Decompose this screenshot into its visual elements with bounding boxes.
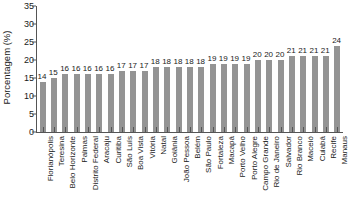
bar-group[interactable]: 21 [309, 6, 320, 132]
x-axis-tick-mark [54, 127, 55, 132]
x-axis-tick-mark [190, 127, 191, 132]
x-axis-tick-label: Goiânia [162, 134, 173, 224]
bar-group[interactable]: 16 [94, 6, 105, 132]
x-axis-tick-label: Florianópolis [37, 134, 48, 224]
bar[interactable] [312, 56, 318, 132]
bar-group[interactable]: 21 [298, 6, 309, 132]
x-axis-tick-label: Salvador [275, 134, 286, 224]
bar-group[interactable]: 17 [128, 6, 139, 132]
x-axis-tick-label: Campo Grande [252, 134, 263, 224]
bar[interactable] [164, 67, 170, 132]
x-axis-tick-mark [88, 127, 89, 132]
bar-group[interactable]: 16 [82, 6, 93, 132]
bar-group[interactable]: 24 [332, 6, 343, 132]
bar-value-label: 21 [321, 47, 330, 55]
x-axis-tick-mark [269, 127, 270, 132]
bar-group[interactable]: 18 [150, 6, 161, 132]
bar[interactable] [85, 74, 91, 132]
bar[interactable] [221, 64, 227, 132]
bar-value-label: 20 [253, 51, 262, 59]
bar-group[interactable]: 19 [230, 6, 241, 132]
bar-group[interactable]: 17 [116, 6, 127, 132]
x-axis-tick-label: Boa Vista [128, 134, 139, 224]
bar[interactable] [40, 82, 46, 132]
x-axis-tick-label: Palmas [71, 134, 82, 224]
bar-value-label: 19 [230, 55, 239, 63]
bar[interactable] [74, 74, 80, 132]
x-axis-tick-label: Rio de Janeiro [264, 134, 275, 224]
x-axis-tick-label: São Paulo [196, 134, 207, 224]
bar-group[interactable]: 21 [286, 6, 297, 132]
x-axis-tick-label: Porto Velho [230, 134, 241, 224]
x-axis-tick-label: Porto Alegre [241, 134, 252, 224]
bar[interactable] [232, 64, 238, 132]
bar-group[interactable]: 15 [48, 6, 59, 132]
x-axis-tick-mark [99, 127, 100, 132]
x-axis-tick-label: Fortaleza [207, 134, 218, 224]
x-axis-tick-mark [43, 127, 44, 132]
bar[interactable] [62, 74, 68, 132]
bar[interactable] [334, 46, 340, 132]
bar[interactable] [187, 67, 193, 132]
bar[interactable] [278, 60, 284, 132]
bar-value-label: 17 [139, 62, 148, 70]
bar-group[interactable]: 19 [241, 6, 252, 132]
bar-group[interactable]: 14 [37, 6, 48, 132]
bar-group[interactable]: 16 [105, 6, 116, 132]
bar-group[interactable]: 20 [275, 6, 286, 132]
bar-group[interactable]: 17 [139, 6, 150, 132]
bar[interactable] [244, 64, 250, 132]
bar-group[interactable]: 18 [184, 6, 195, 132]
bar-value-label: 16 [94, 65, 103, 73]
bar[interactable] [198, 67, 204, 132]
x-axis-tick-mark [111, 127, 112, 132]
bar-group[interactable]: 18 [162, 6, 173, 132]
x-axis-tick-label: Belo Horizonte [60, 134, 71, 224]
bar-value-label: 21 [309, 47, 318, 55]
bar-value-label: 19 [207, 55, 216, 63]
x-axis-tick-label: Macapá [218, 134, 229, 224]
bar-group[interactable]: 19 [207, 6, 218, 132]
bar-value-label: 21 [298, 47, 307, 55]
x-axis-tick-mark [65, 127, 66, 132]
plot-area: 1415161616161617171718181818181919191920… [37, 6, 343, 132]
bar-value-label: 20 [264, 51, 273, 59]
bar[interactable] [255, 60, 261, 132]
bar[interactable] [51, 78, 57, 132]
bar-value-label: 16 [105, 65, 114, 73]
bar[interactable] [289, 56, 295, 132]
x-axis-tick-label: João Pessoa [173, 134, 184, 224]
bar-value-label: 18 [185, 58, 194, 66]
x-axis-tick-mark [235, 127, 236, 132]
bar-value-label: 24 [332, 37, 341, 45]
x-axis-tick-label-text: Manaus [341, 136, 349, 164]
x-axis-tick-mark [326, 127, 327, 132]
bar[interactable] [300, 56, 306, 132]
bar[interactable] [119, 71, 125, 132]
bar[interactable] [142, 71, 148, 132]
bar-group[interactable]: 20 [252, 6, 263, 132]
bar-value-label: 15 [49, 69, 58, 77]
bar[interactable] [266, 60, 272, 132]
bar-group[interactable]: 21 [320, 6, 331, 132]
x-axis-tick-label: Teresina [48, 134, 59, 224]
bar-group[interactable]: 20 [264, 6, 275, 132]
bar-group[interactable]: 16 [60, 6, 71, 132]
bar-group[interactable]: 18 [196, 6, 207, 132]
bar-group[interactable]: 19 [218, 6, 229, 132]
bar-value-label: 14 [37, 73, 46, 81]
bar[interactable] [176, 67, 182, 132]
bar-value-label: 16 [71, 65, 80, 73]
x-axis-tick-label: Rio Branco [286, 134, 297, 224]
bar-group[interactable]: 18 [173, 6, 184, 132]
bar[interactable] [210, 64, 216, 132]
bar-value-label: 17 [117, 62, 126, 70]
bar[interactable] [323, 56, 329, 132]
bar[interactable] [153, 67, 159, 132]
x-axis-tick-label: Distrito Federal [82, 134, 93, 224]
bar[interactable] [108, 74, 114, 132]
bar[interactable] [96, 74, 102, 132]
bar[interactable] [130, 71, 136, 132]
bar-group[interactable]: 16 [71, 6, 82, 132]
x-axis-tick-label: Belém [184, 134, 195, 224]
